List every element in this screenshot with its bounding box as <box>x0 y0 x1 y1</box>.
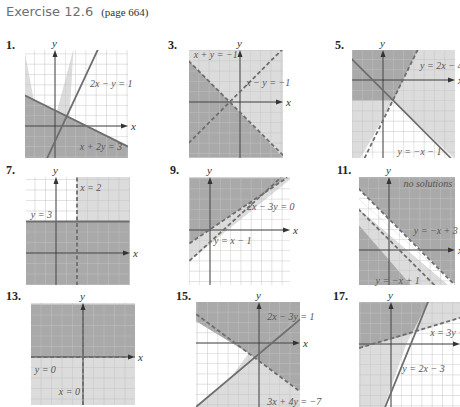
exercise-number: 5. <box>335 38 344 53</box>
equation-label: y = 0 <box>34 364 56 375</box>
y-axis-label: y <box>387 289 393 301</box>
exercise-number: 11. <box>337 163 351 178</box>
equation-label: y = −x − 1 <box>396 146 441 157</box>
equation-label: y = x − 1 <box>213 235 251 246</box>
x-axis-label: x <box>302 337 308 349</box>
shaded-region <box>83 357 136 405</box>
equation-label: 3x + 4y = −7 <box>266 396 322 407</box>
equation-label: 2x − 3y = 1 <box>267 311 314 322</box>
equation-label: y = 2x − 4 <box>419 60 460 71</box>
x-axis-label: x <box>132 247 138 259</box>
exercise-number: 9. <box>170 163 179 178</box>
y-axis-label: y <box>236 37 242 49</box>
exercise-number: 13. <box>6 289 21 304</box>
inequality-graph: xy2x − y = 1x + 2y = 3 <box>25 50 128 158</box>
page-reference: (page 664) <box>101 6 148 18</box>
y-axis-label: y <box>51 37 57 49</box>
equation-label: no solutions <box>403 178 452 189</box>
exercise-number: 7. <box>6 163 15 178</box>
inequality-graph: xy2x − 3y = 13x + 4y = −7 <box>196 302 300 407</box>
equation-label: x = 0 <box>58 386 80 397</box>
inequality-graph: xyx = 2y = 3 <box>26 177 130 285</box>
exercise-number: 17. <box>333 289 348 304</box>
y-axis-label: y <box>385 164 391 176</box>
inequality-graph: xyx + y = −1x − y = −1 <box>189 50 283 158</box>
y-axis-label: y <box>379 37 385 49</box>
x-axis-label: x <box>285 96 291 108</box>
y-axis-label: y <box>255 289 261 301</box>
exercise-number: 3. <box>168 38 177 53</box>
equation-label: x + y = −1 <box>193 49 238 60</box>
equation-label: x + 2y = 3 <box>79 141 122 152</box>
x-axis-label: x <box>130 120 136 132</box>
equation-label: x = 3y − 1 <box>429 327 460 338</box>
y-axis-label: y <box>206 164 212 176</box>
equation-label: x − y = −1 <box>245 77 290 88</box>
inequality-graph: xyx = 3y − 1y = 2x − 3 <box>359 302 460 407</box>
y-axis-label: y <box>79 290 85 302</box>
inequality-graph: xyy = 0x = 0 <box>31 303 135 405</box>
x-axis-label: x <box>292 224 298 236</box>
exercise-title: Exercise 12.6 <box>6 4 93 19</box>
y-axis-label: y <box>52 164 58 176</box>
equation-label: y = 3 <box>30 209 52 220</box>
equation-label: 2x − y = 1 <box>90 78 132 89</box>
exercise-number: 1. <box>6 38 15 53</box>
equation-label: y = −x + 1 <box>375 275 420 286</box>
equation-label: 2x − 3y = 0 <box>247 201 294 212</box>
inequality-graph: xy2x − 3y = 0y = x − 1 <box>189 177 290 285</box>
inequality-graph: xyno solutionsy = −x + 3y = −x + 1 <box>359 177 455 285</box>
inequality-graph: xyy = 2x − 4y = −x − 1 <box>352 50 455 158</box>
x-axis-label: x <box>137 351 143 363</box>
exercise-number: 15. <box>176 289 191 304</box>
equation-label: x = 2 <box>79 182 101 193</box>
equation-label: y = 2x − 3 <box>401 363 444 374</box>
exercise-heading: Exercise 12.6(page 664) <box>6 4 149 19</box>
equation-label: y = −x + 3 <box>413 225 458 236</box>
